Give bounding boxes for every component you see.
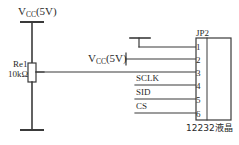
resistor-body [28, 63, 36, 82]
jp2-connector-body [196, 38, 231, 120]
vcc-mid-value: (5V) [106, 52, 127, 64]
signal-label-cs: CS [136, 102, 147, 111]
vcc-mid-symbol: V [88, 52, 96, 64]
vcc-top-symbol: V [18, 5, 26, 17]
pin-number-5: 5 [196, 96, 201, 105]
jp2-designator-label: JP2 [196, 29, 209, 38]
signal-label-sid: SID [136, 88, 151, 97]
vcc-top-label: VCC(5V) [18, 6, 57, 18]
vcc-mid-subscript: CC [96, 57, 106, 66]
signal-label-sclk: SCLK [136, 74, 159, 83]
schematic-diagram: VCC(5V) VCC(5V) Re1 10kΩ SCLK SID CS JP2… [0, 0, 239, 145]
vcc-top-value: (5V) [36, 5, 57, 17]
vcc-mid-label: VCC(5V) [88, 53, 127, 65]
pin-number-2: 2 [196, 56, 201, 65]
device-model-label: 12232液晶 [186, 124, 233, 133]
pin-number-1: 1 [196, 43, 201, 52]
pin-number-4: 4 [196, 82, 201, 91]
pin-number-3: 3 [196, 69, 201, 78]
resistor-value-label: 10kΩ [8, 70, 28, 79]
vcc-top-subscript: CC [26, 10, 36, 19]
resistor-reference-label: Re1 [13, 60, 28, 69]
pin-number-6: 6 [196, 110, 201, 119]
